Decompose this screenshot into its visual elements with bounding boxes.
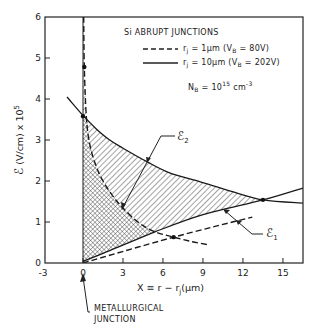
data-point-marker [81,114,85,118]
data-point-marker [261,198,265,202]
data-point-marker [171,235,175,239]
legend-solid-label: rj = 10μm (VB = 202V) [183,58,280,69]
y-tick-label: 4 [35,94,41,104]
y-tick-label: 5 [35,53,41,63]
y-tick-label: 2 [35,176,41,186]
svg-text:ℰ2: ℰ2 [177,129,189,145]
chart-title: Si ABRUPT JUNCTIONS [124,28,219,37]
x-tick-label: -3 [39,268,48,278]
legend-dashed-label: rj = 1μm (VB = 80V) [183,44,269,55]
x-tick-label: 9 [200,268,206,278]
svg-text:ℰ1: ℰ1 [266,226,278,242]
y-tick-label: 1 [35,217,41,227]
y-tick-label: 3 [35,135,41,145]
legend: rj = 1μm (VB = 80V) rj = 10μm (VB = 202V… [143,44,280,69]
svg-text:METALLURGICAL: METALLURGICAL [94,304,164,313]
x-axis-label: X ≡ r − rj(μm) [137,282,204,296]
x-tick-label: 15 [277,268,288,278]
y-tick-label: 0 [35,258,41,268]
x-tick-label: 12 [237,268,248,278]
x-tick-label: 6 [160,268,166,278]
junction-annotation: METALLURGICAL JUNCTION [80,273,164,324]
y-tick-label: 6 [35,12,41,22]
doping-annotation: NB = 1015 cm-3 [188,80,253,93]
svg-text:JUNCTION: JUNCTION [93,315,136,324]
x-tick-label: 3 [120,268,126,278]
y-axis-label: ℰ (V/cm) x 105 [12,105,26,175]
e1-annotation: ℰ1 [223,209,278,242]
data-point-marker [82,65,86,69]
chart: -3036912150123456 ℰ (V/cm) x 105 X ≡ r −… [0,0,320,331]
